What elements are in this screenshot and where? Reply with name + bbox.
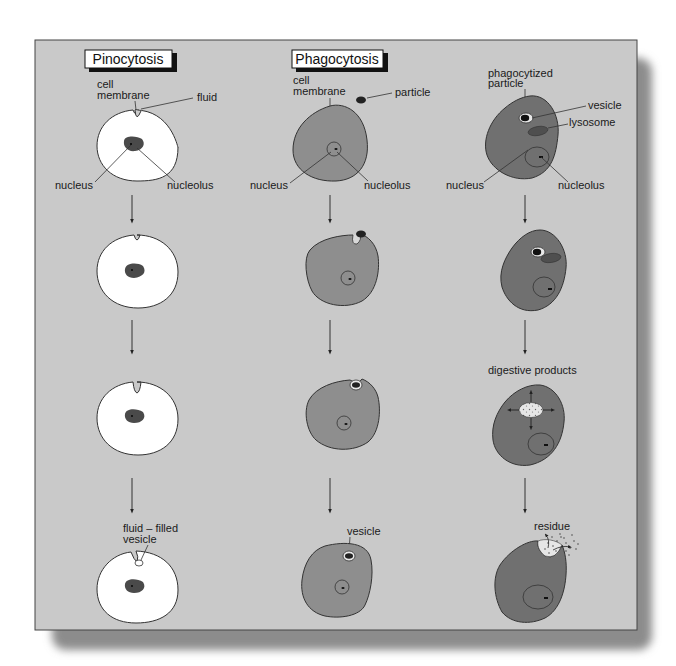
fluid-vesicle-icon	[135, 560, 143, 566]
endocytosis-diagram: Pinocytosis Phagocytosis cell membrane f…	[0, 0, 676, 666]
label-nucleolus: nucleolus	[558, 179, 605, 191]
nucleus-icon	[525, 147, 549, 167]
label-digestive-products: digestive products	[488, 364, 577, 376]
title-pinocytosis: Pinocytosis	[85, 50, 177, 72]
label-residue: residue	[534, 520, 570, 532]
nucleus-icon	[523, 585, 553, 609]
label-particle: particle	[488, 77, 523, 89]
svg-text:Phagocytosis: Phagocytosis	[295, 51, 378, 67]
nucleus-icon	[528, 433, 554, 455]
label-membrane: membrane	[293, 85, 346, 97]
digestive-products-icon	[519, 403, 543, 418]
label-vesicle: vesicle	[588, 99, 622, 111]
label-vesicle: vesicle	[347, 525, 381, 537]
label-vesicle: vesicle	[123, 533, 157, 545]
label-nucleus: nucleus	[55, 179, 93, 191]
pino-cell-3	[97, 382, 178, 455]
nucleus-icon	[533, 277, 555, 297]
label-cell-membrane: membrane	[97, 89, 150, 101]
label-nucleus: nucleus	[446, 179, 484, 191]
particle-icon	[356, 231, 366, 238]
label-nucleolus: nucleolus	[167, 179, 214, 191]
label-particle: particle	[395, 86, 430, 98]
label-nucleus: nucleus	[250, 179, 288, 191]
particle-icon	[356, 97, 366, 104]
label-lysosome: lysosome	[569, 116, 615, 128]
pino-cell-2	[97, 235, 178, 308]
label-fluid: fluid	[197, 91, 217, 103]
label-nucleolus: nucleolus	[364, 179, 411, 191]
svg-text:Pinocytosis: Pinocytosis	[93, 51, 164, 67]
phago-cell-4	[302, 543, 372, 617]
title-phagocytosis: Phagocytosis	[292, 50, 388, 72]
